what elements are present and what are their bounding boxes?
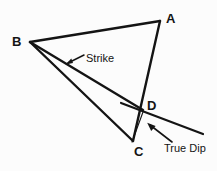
geology-strike-dip-figure: A B C D Strike True Dip: [0, 0, 217, 171]
edge-A-C: [133, 21, 160, 141]
true-dip-leader-arrow: [147, 123, 172, 142]
vertex-label-c: C: [134, 145, 143, 158]
edge-A-B: [30, 21, 160, 42]
strike-line: [121, 103, 203, 134]
strike-annotation-label: Strike: [86, 53, 114, 64]
vertex-label-b: B: [12, 35, 21, 48]
vertex-label-a: A: [166, 12, 175, 25]
strike-leader-arrow: [66, 55, 85, 64]
triangle-outline: [30, 21, 160, 141]
true-dip-annotation-label: True Dip: [164, 143, 206, 154]
vertex-label-d: D: [147, 99, 156, 112]
